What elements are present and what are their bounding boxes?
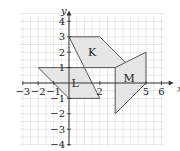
y-tick-label: −4 (50, 139, 65, 150)
y-tick-label: −1 (50, 93, 65, 104)
y-axis-arrow-icon (67, 11, 72, 16)
x-tick-label: 5 (143, 86, 149, 97)
y-tick-label: 1 (59, 62, 65, 73)
x-tick-label: −2 (31, 86, 46, 97)
y-tick-label: 4 (59, 16, 65, 27)
y-tick-label: 2 (59, 47, 65, 58)
y-tick-label: 3 (59, 31, 65, 42)
shape-label-k: K (88, 46, 97, 59)
x-axis-arrow-icon (169, 81, 174, 86)
y-tick-label: −2 (50, 108, 65, 119)
coordinate-plane-figure: KLM xy −3−2−12564321−1−2−3−4 (0, 0, 180, 151)
y-axis-label: y (60, 5, 67, 16)
x-tick-label: 6 (158, 86, 164, 97)
x-tick-label: 2 (97, 86, 103, 97)
x-axis-label: x (177, 83, 180, 94)
x-tick-label: −3 (15, 86, 30, 97)
y-tick-label: −3 (50, 124, 65, 135)
